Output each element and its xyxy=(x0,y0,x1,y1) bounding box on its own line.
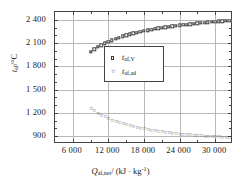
y-axis-minor-tick xyxy=(55,28,57,29)
y-axis-minor-tick xyxy=(55,59,57,60)
y-axis-tick xyxy=(228,66,231,67)
y-axis-minor-tick xyxy=(55,121,57,122)
y-axis-tick-label: 1 800 xyxy=(26,60,46,70)
x-axis-minor-tick xyxy=(73,12,74,14)
y-axis-tick-label: 1 200 xyxy=(26,107,46,117)
y-axis-minor-tick xyxy=(229,28,231,29)
data-point: ☆ xyxy=(227,135,231,140)
y-axis-minor-tick xyxy=(55,35,57,36)
gridline-vertical xyxy=(180,12,181,142)
y-axis-tick xyxy=(55,20,58,21)
x-axis-title-unit: / (kJ · kg xyxy=(111,166,141,176)
gridline-vertical xyxy=(73,12,74,142)
x-axis-minor-tick xyxy=(91,12,92,14)
x-axis-tick-label: 18 000 xyxy=(131,145,156,155)
x-axis-minor-tick xyxy=(197,140,198,142)
y-axis-minor-tick xyxy=(55,105,57,106)
y-axis-tick xyxy=(55,90,58,91)
x-axis-minor-tick xyxy=(215,140,216,142)
open-star-icon: ☆ xyxy=(111,69,122,74)
x-axis-title: Qaf,net/ (kJ · kg-1) xyxy=(0,166,241,176)
x-axis-title-sub: af,net xyxy=(98,170,112,176)
gridline-vertical xyxy=(215,12,216,142)
x-axis-minor-tick xyxy=(126,140,127,142)
y-axis-minor-tick xyxy=(55,128,57,129)
x-axis-minor-tick xyxy=(180,140,181,142)
y-axis-tick xyxy=(228,43,231,44)
y-axis-tick xyxy=(55,43,58,44)
gridline-horizontal xyxy=(55,90,231,91)
y-axis-minor-tick xyxy=(55,51,57,52)
data-point xyxy=(228,19,231,22)
y-axis-minor-tick xyxy=(55,82,57,83)
y-axis-minor-tick xyxy=(229,128,231,129)
y-axis-title: taf/°C xyxy=(9,43,19,83)
legend-label-1: taf,ad xyxy=(122,67,136,76)
y-axis-title-var: t xyxy=(9,70,19,72)
legend-label-0: taf,V xyxy=(122,53,135,62)
y-axis-minor-tick xyxy=(229,82,231,83)
y-axis-tick-label: 1 500 xyxy=(26,84,46,94)
x-axis-minor-tick xyxy=(180,12,181,14)
x-axis-minor-tick xyxy=(162,140,163,142)
y-axis-minor-tick xyxy=(229,35,231,36)
y-axis-minor-tick xyxy=(229,121,231,122)
y-axis-minor-tick xyxy=(229,97,231,98)
x-axis-tick-label: 12 000 xyxy=(95,145,120,155)
x-axis-minor-tick xyxy=(144,140,145,142)
x-axis-minor-tick xyxy=(73,140,74,142)
x-axis-tick-label: 24 000 xyxy=(166,145,191,155)
gridline-horizontal xyxy=(55,43,231,44)
y-axis-tick-label: 900 xyxy=(33,130,46,140)
x-axis-minor-tick xyxy=(162,12,163,14)
y-axis-minor-tick xyxy=(229,105,231,106)
y-axis-minor-tick xyxy=(55,97,57,98)
y-axis-tick xyxy=(55,113,58,114)
y-axis-minor-tick xyxy=(55,74,57,75)
y-axis-minor-tick xyxy=(229,59,231,60)
y-axis-minor-tick xyxy=(229,51,231,52)
y-axis-tick-label: 2 100 xyxy=(26,37,46,47)
y-axis-tick-label: 2 400 xyxy=(26,14,46,24)
y-axis-tick xyxy=(228,113,231,114)
y-axis-title-sub: af xyxy=(13,65,19,70)
x-axis-title-close: ) xyxy=(147,166,150,176)
x-axis-minor-tick xyxy=(144,12,145,14)
x-axis-minor-tick xyxy=(197,12,198,14)
y-axis-tick xyxy=(55,66,58,67)
chart-figure: ☆☆☆☆☆☆☆☆☆☆☆☆☆☆☆☆☆☆☆☆☆☆☆☆☆☆☆☆☆☆☆☆☆☆☆☆☆☆☆☆… xyxy=(0,0,241,186)
y-axis-tick xyxy=(228,90,231,91)
x-axis-tick-label: 30 000 xyxy=(202,145,227,155)
x-axis-minor-tick xyxy=(91,140,92,142)
legend-entry-1: ☆ taf,ad xyxy=(111,65,163,79)
x-axis-minor-tick xyxy=(126,12,127,14)
x-axis-minor-tick xyxy=(108,140,109,142)
legend: taf,V ☆ taf,ad xyxy=(104,46,164,82)
gridline-horizontal xyxy=(55,113,231,114)
open-square-icon xyxy=(111,56,122,59)
x-axis-minor-tick xyxy=(215,12,216,14)
y-axis-tick xyxy=(55,136,58,137)
y-axis-minor-tick xyxy=(229,74,231,75)
x-axis-minor-tick xyxy=(108,12,109,14)
legend-entry-0: taf,V xyxy=(111,51,163,65)
y-axis-title-unit: /°C xyxy=(9,54,19,65)
x-axis-tick-label: 6 000 xyxy=(62,145,82,155)
